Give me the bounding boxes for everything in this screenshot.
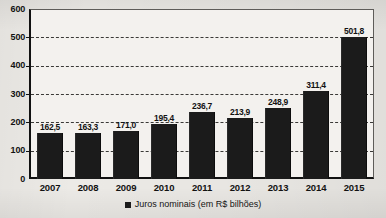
bar-chart: 0100200300400500600 162,5163,3171,0195,4…: [0, 0, 386, 218]
bar: [303, 91, 329, 179]
gridline: [31, 37, 373, 38]
y-axis-tick-label: 500: [11, 33, 25, 42]
y-axis-tick-label: 200: [11, 118, 25, 127]
bar-value-label: 162,5: [30, 123, 70, 132]
y-axis-tick-label: 0: [20, 175, 25, 184]
bar-value-label: 248,9: [258, 98, 298, 107]
bar: [341, 37, 367, 179]
bar-value-label: 236,7: [182, 102, 222, 111]
bar-value-label: 171,0: [106, 121, 146, 130]
x-axis-tick-label: 2010: [143, 183, 185, 193]
x-axis-tick-label: 2015: [333, 183, 375, 193]
bar: [265, 108, 291, 179]
x-axis-tick-label: 2014: [295, 183, 337, 193]
x-axis-tick-label: 2011: [181, 183, 223, 193]
y-axis-tick-label: 100: [11, 146, 25, 155]
bar: [227, 118, 253, 179]
bar: [113, 131, 139, 179]
y-axis-tick-label: 600: [11, 5, 25, 14]
legend-label: Juros nominais (em R$ bilhões): [135, 200, 262, 209]
y-axis-tick-mark: [26, 37, 31, 38]
bar: [151, 124, 177, 179]
y-axis-tick-label: 300: [11, 90, 25, 99]
bar: [189, 112, 215, 179]
x-axis-tick-label: 2008: [67, 183, 109, 193]
bar-value-label: 195,4: [144, 114, 184, 123]
x-axis-tick-label: 2013: [257, 183, 299, 193]
y-axis-tick-mark: [26, 94, 31, 95]
bar-value-label: 311,4: [296, 81, 336, 90]
bar-value-label: 213,9: [220, 108, 260, 117]
bar-value-label: 501,8: [334, 27, 374, 36]
chart-legend: Juros nominais (em R$ bilhões): [0, 200, 386, 209]
y-axis-tick-mark: [26, 151, 31, 152]
bar: [75, 133, 101, 179]
y-axis-tick-mark: [26, 66, 31, 67]
bar-value-label: 163,3: [68, 123, 108, 132]
x-axis-tick-label: 2012: [219, 183, 261, 193]
x-axis-tick-label: 2009: [105, 183, 147, 193]
x-axis-tick-label: 2007: [29, 183, 71, 193]
gridline: [31, 66, 373, 67]
y-axis-tick-label: 400: [11, 61, 25, 70]
bar: [37, 133, 63, 179]
square-marker-icon: [125, 202, 131, 208]
